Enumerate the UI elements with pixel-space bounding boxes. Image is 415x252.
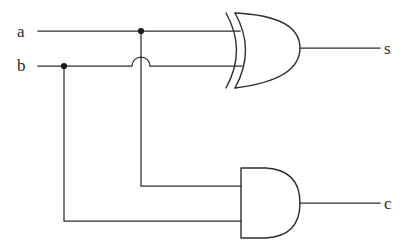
xor-gate	[226, 13, 300, 88]
junction-dot-a	[138, 28, 144, 34]
and-gate-body-icon	[241, 168, 300, 238]
input-label-a: a	[17, 23, 25, 40]
input-label-b: b	[17, 57, 26, 74]
junction-dot-b	[61, 63, 67, 69]
wire-branch-b-to-and	[64, 69, 241, 221]
junction-layer	[61, 28, 144, 69]
logic-circuit-diagram: a b s c	[0, 0, 415, 252]
output-label-c: c	[384, 195, 392, 212]
and-gate	[241, 168, 300, 238]
wire-layer	[38, 31, 380, 221]
wire-branch-a-to-and	[141, 34, 241, 186]
xor-gate-bow-icon	[235, 13, 300, 88]
circuit-svg	[0, 0, 415, 252]
output-label-s: s	[384, 40, 391, 57]
xor-gate-outer-arc-icon	[226, 13, 237, 88]
